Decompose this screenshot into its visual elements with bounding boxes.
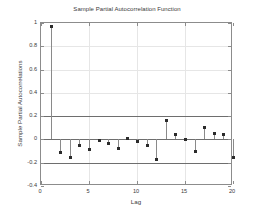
y-tick-mark bbox=[41, 116, 44, 117]
y-tick-label: 0.2 bbox=[0, 112, 37, 118]
data-point-marker bbox=[194, 150, 197, 153]
data-point-marker bbox=[107, 142, 110, 145]
x-tick-mark-top bbox=[233, 23, 234, 26]
x-tick-mark bbox=[41, 181, 42, 184]
y-tick-mark bbox=[41, 139, 44, 140]
x-tick-mark-top bbox=[137, 23, 138, 26]
y-tick-mark-right bbox=[228, 46, 231, 47]
x-axis-label: Lag bbox=[40, 198, 232, 205]
gridline-horizontal bbox=[41, 70, 231, 71]
data-point-marker bbox=[222, 133, 225, 136]
data-point-marker bbox=[155, 158, 158, 161]
data-point-marker bbox=[88, 148, 91, 151]
data-point-marker bbox=[165, 119, 168, 122]
data-point-marker bbox=[136, 140, 139, 143]
x-tick-mark-top bbox=[185, 23, 186, 26]
x-tick-label: 20 bbox=[222, 188, 242, 194]
y-tick-label: 0.4 bbox=[0, 89, 37, 95]
gridline-vertical bbox=[185, 23, 186, 184]
y-axis-label: Sample Partial Autocorrelations bbox=[16, 34, 23, 174]
chart-title: Sample Partial Autocorrelation Function bbox=[0, 6, 254, 12]
gridline-horizontal bbox=[41, 46, 231, 47]
y-tick-mark bbox=[41, 163, 44, 164]
data-point-marker bbox=[203, 126, 206, 129]
confidence-bound-line bbox=[41, 116, 231, 117]
y-tick-label: 1 bbox=[0, 19, 37, 25]
x-tick-mark bbox=[185, 181, 186, 184]
chart-figure: Sample Partial Autocorrelation Function … bbox=[0, 0, 254, 211]
y-tick-mark-right bbox=[228, 163, 231, 164]
x-tick-mark bbox=[89, 181, 90, 184]
x-tick-mark-top bbox=[89, 23, 90, 26]
data-point-marker bbox=[117, 147, 120, 150]
data-point-marker bbox=[184, 138, 187, 141]
data-point-marker bbox=[59, 151, 62, 154]
stem-line bbox=[51, 26, 52, 139]
y-tick-mark-right bbox=[228, 116, 231, 117]
data-point-marker bbox=[174, 133, 177, 136]
data-point-marker bbox=[232, 156, 235, 159]
data-point-marker bbox=[146, 144, 149, 147]
x-tick-label: 15 bbox=[174, 188, 194, 194]
x-tick-mark bbox=[233, 181, 234, 184]
data-point-marker bbox=[98, 139, 101, 142]
data-point-marker bbox=[78, 144, 81, 147]
gridline-horizontal bbox=[41, 93, 231, 94]
data-point-marker bbox=[213, 132, 216, 135]
stem-line bbox=[156, 139, 157, 159]
y-tick-mark-right bbox=[228, 70, 231, 71]
gridline-vertical bbox=[137, 23, 138, 184]
data-point-marker bbox=[69, 156, 72, 159]
y-tick-label: 0.6 bbox=[0, 66, 37, 72]
stem-line bbox=[204, 128, 205, 140]
y-tick-mark bbox=[41, 46, 44, 47]
plot-area bbox=[40, 22, 232, 185]
confidence-bound-line bbox=[41, 163, 231, 164]
y-tick-mark-right bbox=[228, 93, 231, 94]
y-tick-mark-right bbox=[228, 139, 231, 140]
stem-line bbox=[233, 139, 234, 157]
x-tick-label: 10 bbox=[126, 188, 146, 194]
gridline-vertical bbox=[89, 23, 90, 184]
x-tick-label: 5 bbox=[78, 188, 98, 194]
x-tick-mark bbox=[137, 181, 138, 184]
y-tick-mark bbox=[41, 93, 44, 94]
y-tick-mark-right bbox=[228, 186, 231, 187]
y-tick-label: -0.2 bbox=[0, 159, 37, 165]
y-tick-mark-right bbox=[228, 23, 231, 24]
stem-line bbox=[70, 139, 71, 157]
x-tick-mark-top bbox=[41, 23, 42, 26]
y-tick-mark bbox=[41, 186, 44, 187]
x-tick-label: 0 bbox=[30, 188, 50, 194]
data-point-marker bbox=[50, 25, 53, 28]
y-tick-label: 0 bbox=[0, 135, 37, 141]
data-point-marker bbox=[126, 137, 129, 140]
stem-line bbox=[166, 121, 167, 140]
y-tick-mark bbox=[41, 70, 44, 71]
y-tick-label: 0.8 bbox=[0, 42, 37, 48]
